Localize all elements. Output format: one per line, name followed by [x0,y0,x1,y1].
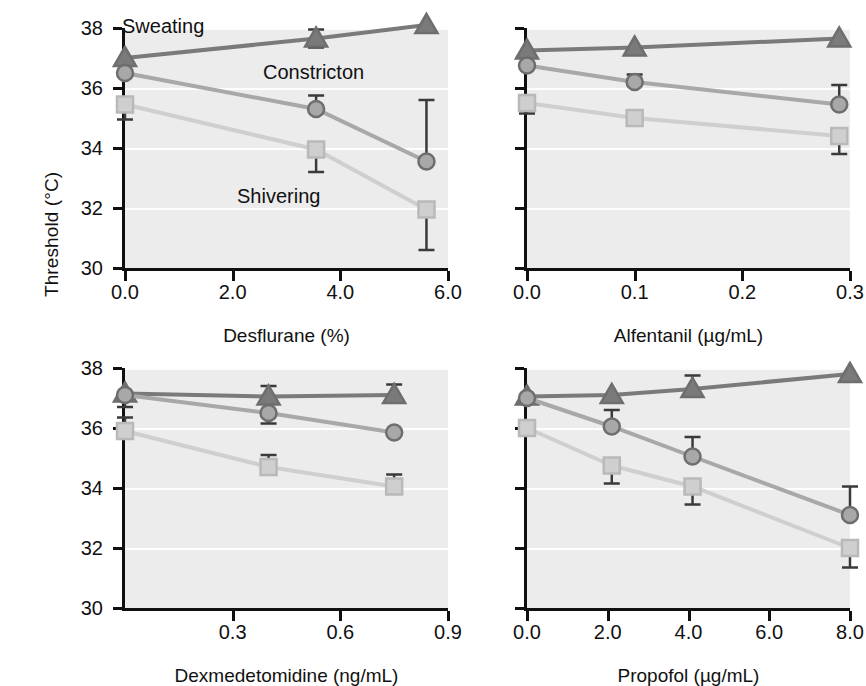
marker-square [604,458,620,474]
marker-circle [519,390,535,406]
marker-circle [842,507,858,523]
marker-square [842,540,858,556]
marker-square [685,479,701,495]
series-annotation-constricton: Constricton [263,62,364,82]
series-constricton [519,390,858,523]
series-sweating [516,363,861,404]
marker-circle [685,449,701,465]
series-shivering [519,420,858,568]
marker-square [519,420,535,436]
marker-circle [604,419,620,435]
series-annotation-sweating: Sweating [122,16,204,36]
marker-triangle [839,363,861,382]
series-annotation-shivering: Shivering [237,186,320,206]
